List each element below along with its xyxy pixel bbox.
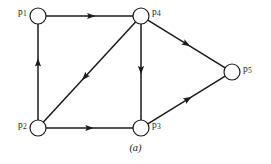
arrowheads-layer [35,13,193,131]
node-label-subscript-p2: 2 [23,122,27,131]
node-p1[interactable] [30,8,46,24]
nodes-layer [30,8,240,136]
edges-layer [38,16,225,128]
figure-container: p1p2p3p4p5 (a) [0,0,271,164]
arrowhead-p4-p5 [181,39,191,49]
node-label-p1: p1 [18,8,27,18]
node-label-subscript-p1: 1 [23,9,27,18]
node-label-p5: p5 [243,65,252,75]
node-label-subscript-p3: 3 [157,122,161,131]
node-p4[interactable] [133,8,149,24]
figure-caption: (a) [0,142,271,153]
node-p3[interactable] [133,120,149,136]
node-p5[interactable] [224,64,240,80]
node-label-p4: p4 [152,8,161,18]
node-p2[interactable] [30,120,46,136]
node-label-subscript-p5: 5 [248,66,252,75]
edge-p4-p2 [43,22,135,122]
node-label-p2: p2 [18,121,27,131]
node-label-subscript-p4: 4 [157,9,161,18]
arrowhead-p3-p5 [183,94,193,104]
node-label-p3: p3 [152,121,161,131]
directed-graph-svg [0,0,271,164]
